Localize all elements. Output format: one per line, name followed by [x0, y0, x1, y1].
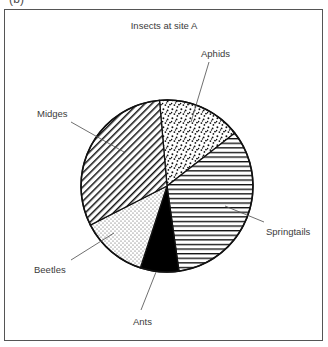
pie-label-aphids: Aphids	[201, 48, 230, 59]
pie-label-ants: Ants	[133, 316, 152, 327]
figure-panel: (b)	[0, 0, 328, 347]
pie-label-beetles: Beetles	[34, 264, 66, 275]
pie-label-springtails: Springtails	[266, 226, 311, 237]
pie-label-midges: Midges	[37, 108, 68, 119]
leader-line-ants	[141, 272, 156, 310]
pie-chart: Insects at site A Aphids Midges Springta…	[0, 0, 328, 347]
chart-title: Insects at site A	[131, 20, 198, 31]
